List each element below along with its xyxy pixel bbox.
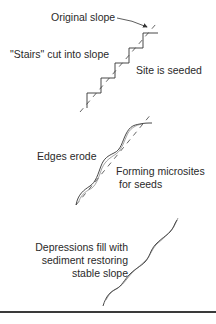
- label-depressions-line3: stable slope: [72, 267, 128, 279]
- original-slope-arrow: [117, 18, 147, 27]
- label-depressions-line2: sediment restoring: [42, 254, 128, 266]
- eroded-slope-profile: [76, 123, 152, 205]
- label-stairs-cut: "Stairs" cut into slope: [10, 48, 109, 60]
- label-microsites-line1: Forming microsites: [116, 165, 205, 177]
- label-microsites-line2: for seeds: [119, 178, 162, 190]
- bottom-rule: [0, 311, 216, 313]
- label-depressions-line1: Depressions fill with: [35, 241, 128, 253]
- label-site-seeded: Site is seeded: [136, 64, 202, 76]
- label-edges-erode: Edges erode: [37, 150, 97, 162]
- label-original-slope: Original slope: [51, 11, 115, 23]
